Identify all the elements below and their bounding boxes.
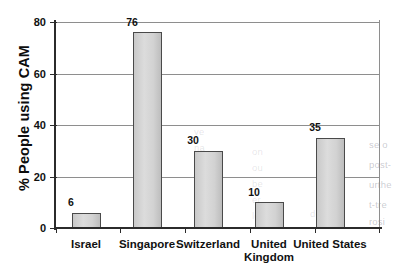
x-tick-mark-3 bbox=[250, 228, 251, 233]
y-axis-title: % People using CAM bbox=[16, 8, 32, 228]
x-tick-mark-4 bbox=[315, 228, 316, 233]
plot-right-border bbox=[379, 20, 380, 229]
y-tick-mark-80 bbox=[50, 22, 57, 23]
bleed-text-fragment: t-tre bbox=[369, 199, 387, 210]
y-tick-label-40: 40 bbox=[18, 119, 46, 131]
bleed-text-fragment: urthe bbox=[369, 179, 392, 190]
bar-united-states[interactable] bbox=[316, 138, 345, 228]
x-tick-mark-0 bbox=[56, 228, 57, 233]
y-tick-mark-60 bbox=[50, 74, 57, 75]
bar-israel[interactable] bbox=[72, 213, 101, 228]
bar-value-united-kingdom: 10 bbox=[230, 186, 278, 198]
gridline-60 bbox=[56, 74, 380, 75]
x-tick-mark-1 bbox=[120, 228, 121, 233]
y-tick-mark-20 bbox=[50, 177, 57, 178]
bar-value-singapore: 76 bbox=[108, 16, 156, 28]
bar-value-united-states: 35 bbox=[291, 121, 339, 133]
x-tick-mark-2 bbox=[185, 228, 186, 233]
y-tick-label-20: 20 bbox=[18, 171, 46, 183]
y-tick-mark-40 bbox=[50, 125, 57, 126]
x-axis-line bbox=[54, 227, 382, 229]
bar-singapore[interactable] bbox=[133, 32, 162, 228]
bleed-text-fragment: ou bbox=[252, 162, 263, 173]
bar-chart: % People using CAM me an bo of un ve na … bbox=[0, 0, 400, 270]
x-tick-mark-5 bbox=[379, 228, 380, 233]
gridline-80 bbox=[56, 22, 380, 23]
bar-value-israel: 6 bbox=[47, 196, 95, 208]
bar-value-switzerland: 30 bbox=[169, 134, 217, 146]
bleed-text-fragment: on bbox=[252, 146, 263, 157]
bleed-text-fragment: rosi bbox=[369, 216, 385, 227]
bar-united-kingdom[interactable] bbox=[255, 202, 284, 228]
y-tick-label-80: 80 bbox=[18, 16, 46, 28]
y-tick-label-60: 60 bbox=[18, 68, 46, 80]
bleed-text-fragment: post- bbox=[369, 159, 391, 170]
x-label-united-states: United States bbox=[289, 238, 371, 251]
y-tick-label-0: 0 bbox=[18, 222, 46, 234]
bar-switzerland[interactable] bbox=[194, 151, 223, 228]
